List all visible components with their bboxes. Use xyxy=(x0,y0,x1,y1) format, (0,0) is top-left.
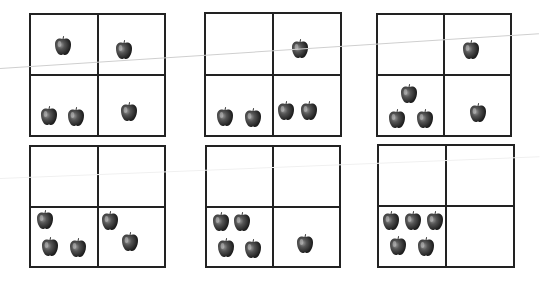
apple-icon xyxy=(68,237,88,258)
apple-icon xyxy=(120,231,140,252)
apple-icon xyxy=(416,236,436,257)
apple-icon xyxy=(425,210,445,231)
counting-grid-3 xyxy=(376,13,512,137)
counting-grid-2 xyxy=(204,12,342,137)
apple-icon xyxy=(243,238,263,259)
counting-grid-5 xyxy=(205,145,341,268)
apple-icon xyxy=(403,210,423,231)
counting-grid-1 xyxy=(29,13,166,137)
apple-icon xyxy=(215,106,235,127)
apple-icon xyxy=(216,237,236,258)
apple-icon xyxy=(276,100,296,121)
apple-icon xyxy=(243,107,263,128)
grid-divider-horizontal xyxy=(31,206,164,208)
grid-divider-horizontal xyxy=(206,74,340,76)
apple-icon xyxy=(39,105,59,126)
grid-divider-horizontal xyxy=(207,206,339,208)
apple-icon xyxy=(299,100,319,121)
apple-icon xyxy=(415,108,435,129)
apple-icon xyxy=(119,101,139,122)
apple-icon xyxy=(468,102,488,123)
apple-icon xyxy=(388,235,408,256)
grid-divider-horizontal xyxy=(379,205,513,207)
apple-icon xyxy=(35,209,55,230)
apple-icon xyxy=(399,83,419,104)
apple-icon xyxy=(232,211,252,232)
apple-icon xyxy=(53,35,73,56)
apple-icon xyxy=(114,39,134,60)
apple-icon xyxy=(381,210,401,231)
apple-icon xyxy=(211,211,231,232)
counting-grid-4 xyxy=(29,145,166,268)
grid-divider-horizontal xyxy=(31,74,164,76)
apple-icon xyxy=(461,39,481,60)
apple-icon xyxy=(66,106,86,127)
grid-divider-horizontal xyxy=(378,74,510,76)
apple-icon xyxy=(40,236,60,257)
apple-icon xyxy=(295,233,315,254)
apple-icon xyxy=(100,210,120,231)
apple-icon xyxy=(387,108,407,129)
